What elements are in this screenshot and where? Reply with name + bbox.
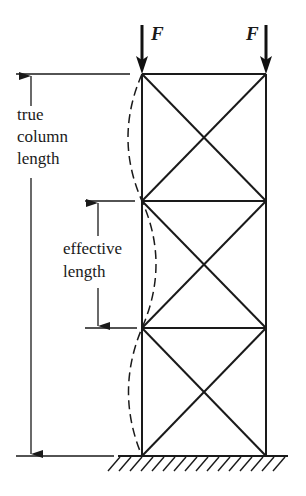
x-brace-bottom-bay [142,328,266,456]
x-brace-top-bay [142,74,266,201]
force-label-left: F [151,24,164,44]
effective-length-label-line1: effective [63,238,122,259]
braced-frame-diagram [0,0,306,496]
force-arrow-right [260,25,272,74]
true-length-label-line3: length [17,148,60,169]
force-arrow-left [136,25,148,74]
true-length-label-line1: true [17,104,43,125]
effective-length-label-line2: length [63,261,106,282]
x-brace-middle-bay [142,201,266,328]
true-length-label-line2: column [17,126,68,147]
force-label-right: F [246,24,259,44]
ground-hatching [108,457,285,471]
